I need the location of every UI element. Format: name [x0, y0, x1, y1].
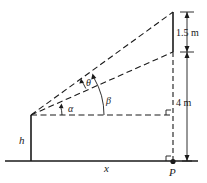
label-screen-elevation: 4 m — [176, 97, 192, 108]
arrowhead-top-up — [185, 12, 190, 18]
label-theta: θ — [86, 77, 91, 88]
angle-alpha-arrowhead — [59, 104, 64, 109]
label-p: P — [168, 166, 176, 178]
arrowhead-mid-up — [185, 52, 190, 58]
sight-line-bottom — [31, 52, 173, 115]
right-angle-marker-eye — [166, 110, 171, 115]
label-alpha: α — [68, 103, 74, 114]
label-x: x — [103, 162, 109, 174]
arrowhead-mid-down — [185, 46, 190, 52]
label-screen-height: 1.5 m — [176, 27, 199, 38]
label-h: h — [19, 134, 25, 146]
right-angle-marker-ground — [166, 156, 171, 161]
arrowhead-bottom-down — [185, 155, 190, 161]
point-p-dot — [170, 159, 175, 164]
label-beta: β — [105, 95, 111, 106]
angle-beta-arrowhead — [91, 74, 96, 80]
viewing-angle-diagram: h x P α β θ 1.5 m 4 m — [0, 0, 207, 183]
